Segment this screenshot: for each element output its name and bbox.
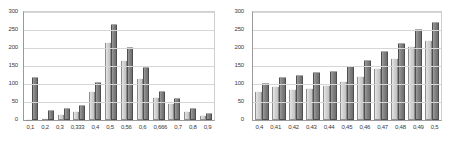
- x-axis-tick-label: 0,333: [71, 124, 85, 130]
- x-axis-tick-label: 0,9: [204, 124, 212, 130]
- right-plot-wrapper: 050100150200250300 0,40,410,420,430,440,…: [225, 0, 450, 152]
- bar-body: [364, 60, 371, 120]
- bar-series-1: [408, 46, 415, 120]
- bar-body: [296, 75, 303, 120]
- y-axis-tick-label: 300: [9, 8, 18, 14]
- x-axis-tick-label: 0,4: [92, 124, 100, 130]
- bar-series-2: [111, 24, 117, 120]
- y-axis-tick-label: 50: [238, 98, 244, 104]
- bar-series-1: [425, 40, 432, 120]
- y-axis-tick-label: 250: [235, 26, 244, 32]
- x-axis-tick-label: 0,1: [27, 124, 35, 130]
- gridline: [253, 48, 441, 49]
- left-y-axis-labels: 050100150200250300: [0, 0, 21, 152]
- gridline: [24, 30, 214, 31]
- bar-top-cap: [279, 77, 286, 78]
- y-axis-tick-label: 0: [241, 116, 244, 122]
- bar-top-cap: [79, 105, 85, 106]
- gridline: [24, 48, 214, 49]
- right-y-axis-labels: 050100150200250300: [225, 0, 247, 152]
- bar-body: [391, 58, 398, 120]
- bar-top-cap: [374, 68, 381, 69]
- bar-body: [313, 72, 320, 120]
- bar-top-cap: [111, 24, 117, 25]
- bar-body: [289, 89, 296, 120]
- bar-series-1: [357, 76, 364, 120]
- bar-series-2: [381, 51, 388, 120]
- bar-series-1: [306, 88, 313, 120]
- bar-body: [408, 46, 415, 120]
- bar-body: [425, 40, 432, 120]
- bar-series-2: [432, 22, 439, 120]
- bar-top-cap: [32, 77, 38, 78]
- bar-top-cap: [364, 60, 371, 61]
- x-axis-tick-label: 0,5: [106, 124, 114, 130]
- bar-series-1: [255, 91, 262, 120]
- bar-body: [206, 113, 212, 120]
- gridline: [253, 102, 441, 103]
- x-axis-tick-label: 0,48: [395, 124, 406, 130]
- gridline: [253, 30, 441, 31]
- bar-series-2: [313, 72, 320, 120]
- gridline: [24, 12, 214, 13]
- bar-top-cap: [289, 89, 296, 90]
- bar-series-2: [415, 29, 422, 120]
- bar-series-2: [79, 105, 85, 120]
- left-bar-chart: 050100150200250300 0,10,20,30,3330,40,50…: [0, 0, 225, 152]
- x-axis-tick-label: 0,45: [342, 124, 353, 130]
- x-axis-tick-label: 0,43: [306, 124, 317, 130]
- x-axis-tick-label: 0,666: [153, 124, 167, 130]
- bar-series-2: [143, 67, 149, 120]
- bar-top-cap: [313, 72, 320, 73]
- left-plot-wrapper: 050100150200250300 0,10,20,30,3330,40,50…: [0, 0, 225, 152]
- bar-top-cap: [323, 85, 330, 86]
- bar-series-1: [289, 89, 296, 120]
- bar-body: [347, 66, 354, 120]
- bar-top-cap: [391, 58, 398, 59]
- y-axis-tick-label: 250: [9, 26, 18, 32]
- left-x-axis-labels: 0,10,20,30,3330,40,50,560,60,6660,70,80,…: [23, 124, 215, 130]
- bar-body: [357, 76, 364, 120]
- gridline: [253, 84, 441, 85]
- bar-series-2: [206, 113, 212, 120]
- x-axis-tick-label: 0,41: [270, 124, 281, 130]
- x-axis-tick-label: 0,4: [256, 124, 264, 130]
- right-x-axis-labels: 0,40,410,420,430,440,450,460,470,480,490…: [252, 124, 442, 130]
- bar-body: [415, 29, 422, 120]
- x-axis-tick-label: 0,8: [189, 124, 197, 130]
- y-axis-tick-label: 150: [9, 62, 18, 68]
- bar-body: [255, 91, 262, 120]
- x-axis-tick-label: 0,3: [56, 124, 64, 130]
- x-axis-tick-label: 0,6: [139, 124, 147, 130]
- bar-top-cap: [398, 43, 405, 44]
- bar-top-cap: [190, 108, 196, 109]
- y-axis-tick-label: 200: [235, 44, 244, 50]
- y-axis-tick-label: 100: [235, 80, 244, 86]
- bar-top-cap: [64, 108, 70, 109]
- x-axis-tick-label: 0,2: [41, 124, 49, 130]
- bar-top-cap: [357, 76, 364, 77]
- bar-top-cap: [159, 91, 165, 92]
- bar-series-2: [190, 108, 196, 120]
- bar-series-2: [296, 75, 303, 120]
- bar-body: [64, 108, 70, 120]
- x-axis-tick-label: 0,49: [413, 124, 424, 130]
- bar-top-cap: [174, 98, 180, 99]
- bar-top-cap: [340, 81, 347, 82]
- left-plot-area: [23, 11, 215, 121]
- bar-body: [398, 43, 405, 120]
- right-bar-chart: 050100150200250300 0,40,410,420,430,440,…: [225, 0, 450, 152]
- bar-body: [306, 88, 313, 120]
- gridline: [24, 84, 214, 85]
- x-axis-tick-label: 0,44: [324, 124, 335, 130]
- bar-body: [111, 24, 117, 120]
- x-axis-tick-label: 0,46: [359, 124, 370, 130]
- bar-series-1: [340, 81, 347, 120]
- bar-series-2: [64, 108, 70, 120]
- bar-top-cap: [330, 71, 337, 72]
- y-axis-tick-label: 300: [235, 8, 244, 14]
- chart-figure: 050100150200250300 0,10,20,30,3330,40,50…: [0, 0, 450, 152]
- y-axis-tick-label: 50: [12, 98, 18, 104]
- bar-top-cap: [381, 51, 388, 52]
- bar-series-2: [48, 110, 54, 120]
